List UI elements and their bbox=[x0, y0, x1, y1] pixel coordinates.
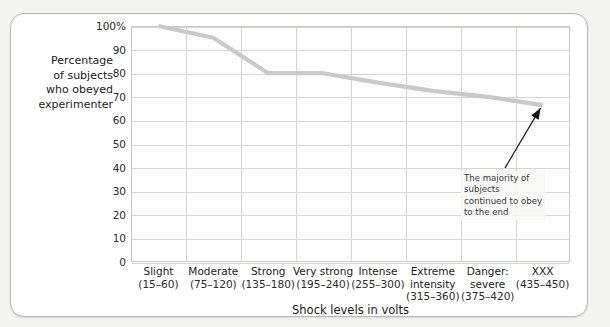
x-axis-tick-label: XXX(435–450) bbox=[503, 265, 583, 290]
annotation-callout: The majority of subjects continued to ob… bbox=[461, 171, 545, 220]
x-axis-tick-name: Strong bbox=[251, 265, 286, 277]
x-axis-title: Shock levels in volts bbox=[131, 303, 570, 317]
annotation-arrow-icon bbox=[505, 108, 541, 168]
x-axis-tick-name: XXX bbox=[532, 265, 554, 277]
x-axis-tick-name: Intense bbox=[358, 265, 397, 277]
page-background: Percentage of subjects who obeyed experi… bbox=[0, 0, 610, 327]
x-axis-tick-range: (375–420) bbox=[448, 290, 528, 303]
x-axis-tick-name: Slight bbox=[143, 265, 173, 277]
obedience-line bbox=[158, 26, 542, 105]
x-axis-tick-range: (435–450) bbox=[503, 278, 583, 291]
